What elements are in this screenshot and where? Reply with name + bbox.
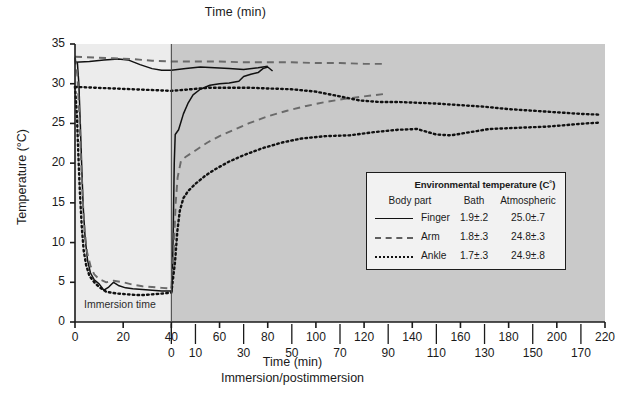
legend-row: Arm1.8±.324.8±.3 [367, 230, 567, 247]
legend-header-body-part: Body part [379, 195, 441, 206]
x-tick-label-primary: 100 [296, 330, 336, 344]
legend-atmospheric-temp: 24.9±.8 [497, 250, 559, 261]
legend-header-bath: Bath [453, 195, 495, 206]
legend-header-atmospheric: Atmospheric [497, 195, 559, 206]
x-tick-label-primary: 20 [103, 330, 143, 344]
figure-container: Time (min) Temperature (°C) 051015202530… [0, 0, 625, 393]
x-tick-label-primary: 80 [248, 330, 288, 344]
legend-bath-temp: 1.7±.3 [453, 250, 495, 261]
legend-line-sample-finger [375, 218, 413, 223]
y-tick-label: 0 [31, 314, 65, 328]
x-tick-label-primary: 180 [489, 330, 529, 344]
x-tick-label-primary: 220 [585, 330, 625, 344]
legend-atmospheric-temp: 24.8±.3 [497, 231, 559, 242]
x-tick-label-primary: 140 [392, 330, 432, 344]
legend-env-header: Environmental temperature (C˚) [409, 179, 561, 190]
x-tick-label-primary: 200 [537, 330, 577, 344]
legend-line-sample-arm [375, 237, 413, 243]
y-tick-label: 35 [31, 36, 65, 50]
x-tick-label-primary: 0 [55, 330, 95, 344]
y-tick-label: 25 [31, 115, 65, 129]
x-tick-label-primary: 160 [440, 330, 480, 344]
legend-bath-temp: 1.9±.2 [453, 212, 495, 223]
legend-line-sample-ankle [375, 256, 413, 262]
x-tick-label-primary: 60 [200, 330, 240, 344]
legend-bath-temp: 1.8±.3 [453, 231, 495, 242]
bottom-axis-subtitle-text: Immersion/postimmersion [221, 371, 364, 385]
chart-legend: Environmental temperature (C˚) Body part… [366, 172, 566, 270]
immersion-region [75, 44, 171, 322]
legend-atmospheric-temp: 25.0±.7 [497, 212, 559, 223]
x-tick-label-primary: 40 [151, 330, 191, 344]
bottom-axis-title-text: Time (min) [263, 355, 322, 369]
bottom-axis-subtitle: Immersion/postimmersion [0, 371, 625, 385]
x-tick-label-primary: 120 [344, 330, 384, 344]
immersion-time-annotation: Immersion time [84, 298, 156, 310]
legend-row: Ankle1.7±.324.9±.8 [367, 249, 567, 266]
legend-row: Finger1.9±.225.0±.7 [367, 211, 567, 228]
bottom-axis-title: Time (min) [0, 355, 625, 369]
y-tick-label: 30 [31, 76, 65, 90]
y-tick-label: 20 [31, 155, 65, 169]
y-tick-label: 10 [31, 235, 65, 249]
y-tick-label: 5 [31, 274, 65, 288]
y-tick-label: 15 [31, 195, 65, 209]
